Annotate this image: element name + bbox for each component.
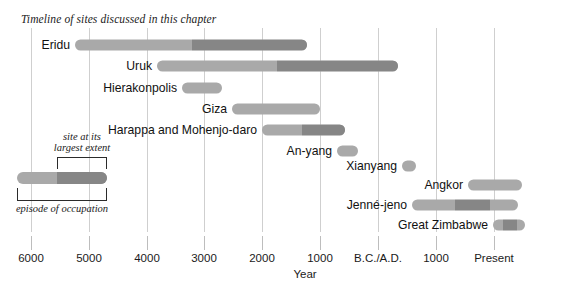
- timeline-bar: [412, 200, 518, 211]
- timeline-bar: [337, 146, 358, 157]
- axis-tick-mark: [494, 236, 495, 250]
- axis-tick-label: Present: [474, 252, 514, 264]
- timeline-bar-largest-extent-segment: [302, 125, 345, 136]
- legend-occupation-label: episode of occupation: [13, 203, 111, 214]
- axis-tick-label: 2000: [249, 252, 275, 264]
- timeline-bar: [232, 104, 320, 115]
- axis-tick-label: 4000: [134, 252, 160, 264]
- legend-largest-extent-label-line2: largest extent: [48, 142, 116, 153]
- axis-tick-mark: [204, 236, 205, 250]
- legend-largest-extent-bracket: [57, 157, 107, 169]
- timeline-bar-largest-extent-segment: [192, 40, 307, 51]
- legend-largest-extent-label-line1: site at its: [52, 131, 112, 142]
- timeline-bar-largest-extent-segment: [455, 200, 490, 211]
- timeline-bar: [493, 220, 525, 231]
- timeline-row-label: Hierakonpolis: [0, 81, 177, 95]
- timeline-bar: [157, 61, 398, 72]
- axis-tick-mark: [378, 236, 379, 250]
- timeline-bar-largest-extent-segment: [503, 220, 517, 231]
- timeline-bar: [262, 125, 345, 136]
- timeline-bar: [468, 180, 522, 191]
- timeline-bar: [182, 83, 222, 94]
- timeline-bar: [75, 40, 307, 51]
- timeline-bar-largest-extent-segment: [277, 61, 398, 72]
- timeline-row-label: Great Zimbabwe: [0, 218, 488, 232]
- axis-tick-mark: [262, 236, 263, 250]
- axis-tick-mark: [147, 236, 148, 250]
- axis-tick-label: 5000: [76, 252, 102, 264]
- x-axis-title: Year: [293, 268, 316, 280]
- axis-tick-label: 3000: [191, 252, 217, 264]
- chart-title: Timeline of sites discussed in this chap…: [21, 13, 216, 25]
- timeline-row-label: Eridu: [0, 38, 70, 52]
- timeline-chart-figure: Timeline of sites discussed in this chap…: [0, 0, 582, 292]
- axis-tick-label: B.C./A.D.: [354, 252, 402, 264]
- legend-occupation-bracket: [17, 188, 107, 201]
- axis-tick-label: 6000: [18, 252, 44, 264]
- legend-largest-extent-segment: [57, 172, 107, 184]
- timeline-row-label: Giza: [0, 102, 227, 116]
- axis-tick-label: 1000: [423, 252, 449, 264]
- axis-tick-label: 1000: [307, 252, 333, 264]
- axis-tick-mark: [89, 236, 90, 250]
- timeline-row-label: Harappa and Mohenjo-daro: [0, 123, 257, 137]
- axis-tick-mark: [320, 236, 321, 250]
- axis-tick-mark: [31, 236, 32, 250]
- timeline-row-label: Uruk: [0, 59, 152, 73]
- axis-tick-mark: [436, 236, 437, 250]
- timeline-bar: [402, 161, 416, 172]
- legend-sample-bar: [17, 172, 107, 184]
